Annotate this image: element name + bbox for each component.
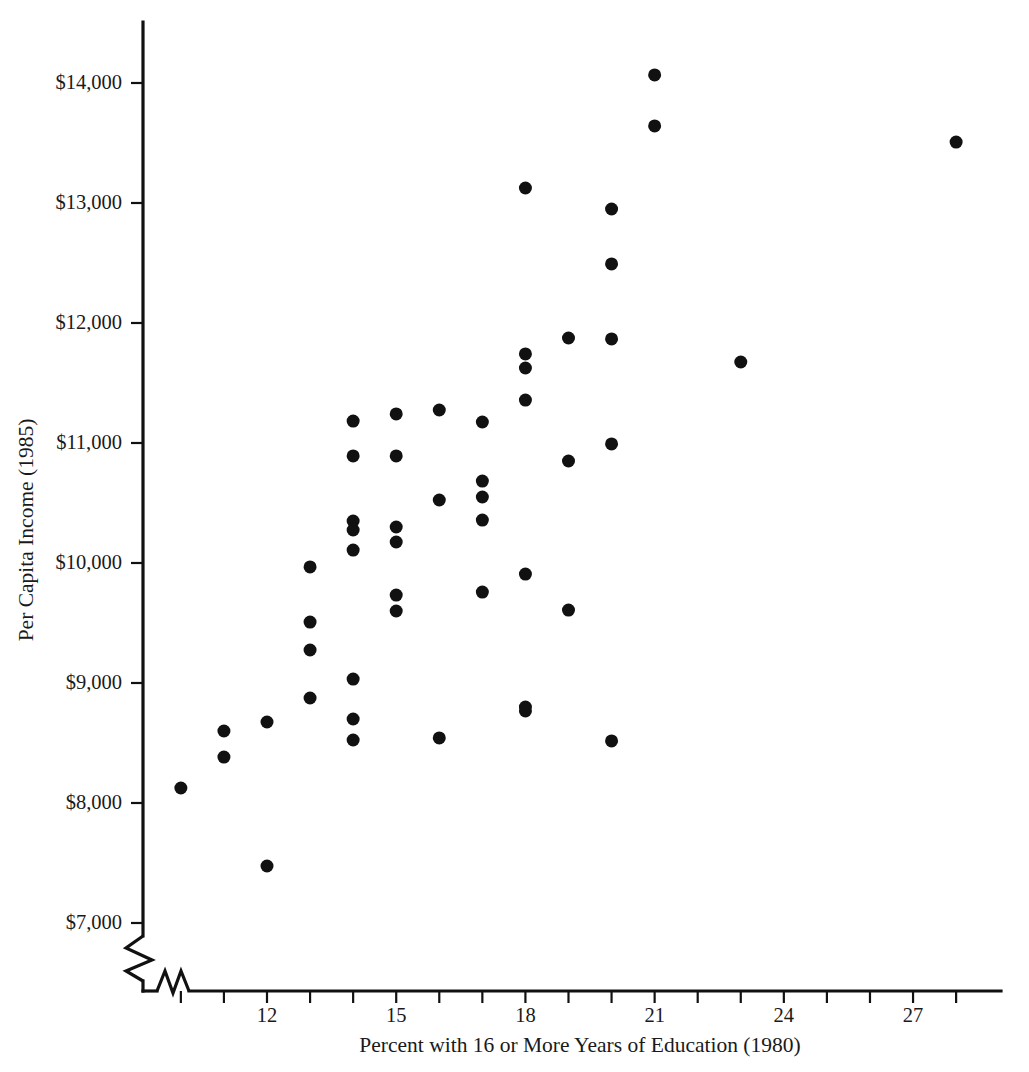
data-point — [950, 136, 963, 149]
data-point — [347, 415, 360, 428]
data-point — [605, 734, 618, 747]
y-axis-ticks: $7,000$8,000$9,000$10,000$11,000$12,000$… — [55, 71, 143, 933]
x-tick-label: 18 — [515, 1004, 536, 1026]
data-point — [390, 449, 403, 462]
data-point — [519, 347, 532, 360]
y-tick-label: $10,000 — [55, 551, 122, 573]
data-point — [562, 604, 575, 617]
scatterplot-figure: $7,000$8,000$9,000$10,000$11,000$12,000$… — [0, 0, 1029, 1072]
data-point — [605, 257, 618, 270]
data-point — [734, 356, 747, 369]
x-axis-break-icon — [157, 971, 189, 993]
data-point — [433, 494, 446, 507]
x-axis-ticks: 121518212427 — [181, 991, 956, 1026]
data-point — [347, 544, 360, 557]
data-point — [476, 514, 489, 527]
y-tick-label: $8,000 — [66, 791, 122, 813]
x-tick-label: 27 — [903, 1004, 924, 1026]
data-point — [304, 644, 317, 657]
data-point — [390, 407, 403, 420]
data-point — [648, 119, 661, 132]
data-point — [648, 68, 661, 81]
data-point — [390, 536, 403, 549]
data-point — [304, 616, 317, 629]
data-point — [347, 524, 360, 537]
data-point — [347, 734, 360, 747]
x-tick-label: 15 — [386, 1004, 407, 1026]
y-tick-label: $14,000 — [55, 71, 122, 93]
data-point — [519, 394, 532, 407]
data-point — [476, 491, 489, 504]
data-point — [562, 332, 575, 345]
data-point — [476, 586, 489, 599]
data-point — [476, 416, 489, 429]
data-point — [347, 713, 360, 726]
y-axis-break-icon — [126, 936, 152, 981]
data-point — [433, 404, 446, 417]
data-point — [519, 182, 532, 195]
x-axis-title: Percent with 16 or More Years of Educati… — [359, 1033, 800, 1057]
data-point — [304, 560, 317, 573]
data-point — [261, 860, 274, 873]
y-tick-label: $12,000 — [55, 311, 122, 333]
x-tick-label: 12 — [257, 1004, 278, 1026]
data-point — [605, 437, 618, 450]
data-point — [476, 475, 489, 488]
data-point — [347, 449, 360, 462]
data-point — [217, 751, 230, 764]
data-point — [174, 782, 187, 795]
data-point — [562, 455, 575, 468]
y-tick-label: $11,000 — [56, 431, 122, 453]
data-point — [390, 605, 403, 618]
data-point — [390, 521, 403, 534]
data-point — [390, 589, 403, 602]
data-point — [519, 704, 532, 717]
y-tick-label: $9,000 — [66, 671, 122, 693]
data-point — [519, 362, 532, 375]
data-point — [433, 731, 446, 744]
y-axis-title: Per Capita Income (1985) — [14, 419, 38, 642]
x-tick-label: 24 — [774, 1004, 795, 1026]
y-tick-label: $7,000 — [66, 911, 122, 933]
y-tick-label: $13,000 — [55, 191, 122, 213]
scatter-plot-canvas: $7,000$8,000$9,000$10,000$11,000$12,000$… — [0, 0, 1029, 1072]
data-point — [519, 568, 532, 581]
data-point — [217, 725, 230, 738]
data-point — [347, 673, 360, 686]
x-tick-label: 21 — [644, 1004, 665, 1026]
data-point — [605, 203, 618, 216]
data-point — [261, 716, 274, 729]
data-point — [605, 332, 618, 345]
data-point — [304, 692, 317, 705]
data-points-group — [174, 68, 962, 872]
